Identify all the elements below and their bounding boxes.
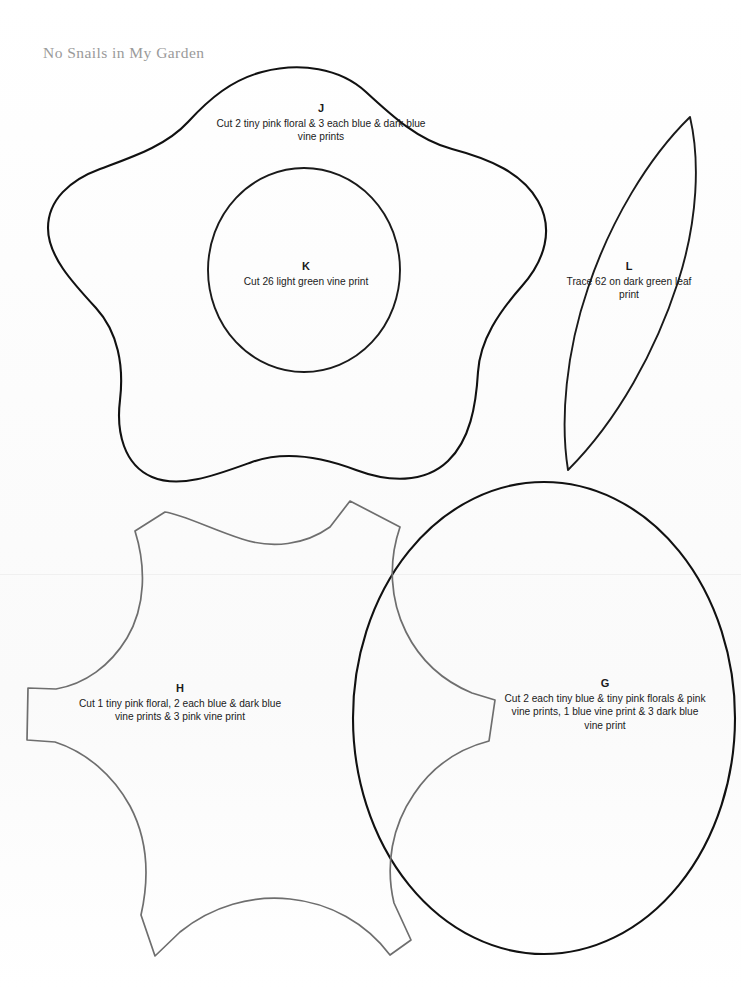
piece-description-L: Trace 62 on dark green leaf print [562,275,696,302]
piece-label-G: G Cut 2 each tiny blue & tiny pink flora… [502,676,708,732]
piece-label-H: H Cut 1 tiny pink floral, 2 each blue & … [77,681,283,724]
piece-description-G: Cut 2 each tiny blue & tiny pink florals… [502,692,708,732]
piece-letter-G: G [502,676,708,691]
piece-description-K: Cut 26 light green vine print [218,275,394,288]
piece-label-K: K Cut 26 light green vine print [218,259,394,288]
piece-description-J: Cut 2 tiny pink floral & 3 each blue & d… [206,117,436,144]
piece-label-J: J Cut 2 tiny pink floral & 3 each blue &… [206,101,436,144]
piece-description-H: Cut 1 tiny pink floral, 2 each blue & da… [77,697,283,724]
piece-letter-L: L [562,259,696,274]
shape-piece-H[interactable] [27,501,495,956]
piece-letter-K: K [218,259,394,274]
piece-letter-H: H [77,681,283,696]
pattern-page: No Snails in My Garden J Cut 2 tiny pink… [0,0,741,989]
pattern-shapes-canvas [0,0,741,989]
piece-label-L: L Trace 62 on dark green leaf print [562,259,696,302]
piece-letter-J: J [206,101,436,116]
